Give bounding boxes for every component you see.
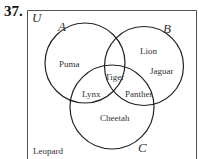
venn-diagram: U A B C Puma Lion Jaguar Tiger Lynx Pant…: [0, 0, 199, 159]
element-jaguar: Jaguar: [150, 66, 174, 76]
set-b-label: B: [163, 21, 171, 36]
element-cheetah: Cheetah: [100, 113, 130, 123]
set-c-label: C: [138, 140, 147, 155]
element-leopard: Leopard: [33, 146, 63, 156]
element-lion: Lion: [140, 46, 157, 56]
element-tiger: Tiger: [105, 72, 124, 82]
element-panther: Panther: [125, 89, 153, 99]
element-puma: Puma: [59, 59, 80, 69]
set-a-label: A: [57, 19, 66, 34]
universe-label: U: [32, 10, 43, 25]
element-lynx: Lynx: [82, 89, 101, 99]
